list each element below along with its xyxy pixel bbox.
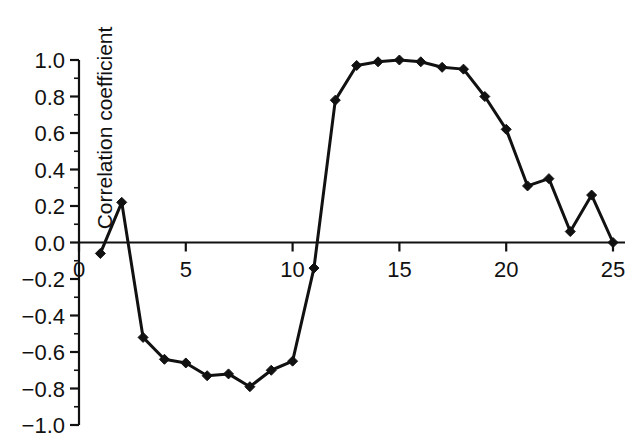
data-series-line — [100, 60, 613, 387]
data-point-marker — [309, 263, 319, 273]
y-tick-label-5: 0.0 — [34, 231, 65, 256]
y-tick-label-6: 0.2 — [34, 194, 65, 219]
data-point-marker — [373, 57, 383, 67]
y-tick-labels: −1.0−0.8−0.6−0.4−0.20.00.20.40.60.81.0 — [22, 48, 65, 438]
y-axis-title-text: Correlation coefficient — [93, 26, 116, 229]
y-tick-label-10: 1.0 — [34, 48, 65, 73]
series-line-correlation-coefficient — [100, 60, 613, 387]
x-tick-label-3: 15 — [387, 257, 411, 282]
y-axis — [70, 60, 79, 425]
data-point-marker — [117, 197, 127, 207]
data-point-markers — [95, 55, 618, 392]
x-tick-label-4: 20 — [494, 257, 518, 282]
data-point-marker — [288, 356, 298, 366]
data-point-marker — [608, 238, 618, 248]
y-tick-label-1: −0.8 — [22, 377, 65, 402]
x-tick-label-5: 25 — [601, 257, 625, 282]
y-tick-label-8: 0.6 — [34, 121, 65, 146]
data-point-marker — [437, 62, 447, 72]
data-point-marker — [544, 174, 554, 184]
x-tick-label-0: 0 — [73, 257, 85, 282]
line-chart-plot: −1.0−0.8−0.6−0.4−0.20.00.20.40.60.81.0 0… — [0, 0, 644, 443]
y-tick-label-3: −0.4 — [22, 304, 65, 329]
y-axis-title: Correlation coefficient — [93, 26, 116, 229]
y-tick-label-9: 0.8 — [34, 85, 65, 110]
data-point-marker — [394, 55, 404, 65]
y-tick-label-2: −0.6 — [22, 340, 65, 365]
x-tick-labels: 0510152025 — [73, 257, 625, 282]
x-tick-label-1: 5 — [180, 257, 192, 282]
data-point-marker — [416, 57, 426, 67]
y-tick-label-0: −1.0 — [22, 413, 65, 438]
chart-figure: −1.0−0.8−0.6−0.4−0.20.00.20.40.60.81.0 0… — [0, 0, 644, 443]
data-point-marker — [95, 248, 105, 258]
x-axis — [79, 243, 625, 252]
y-tick-label-4: −0.2 — [22, 267, 65, 292]
y-tick-label-7: 0.4 — [34, 158, 65, 183]
x-tick-label-2: 10 — [280, 257, 304, 282]
data-point-marker — [523, 181, 533, 191]
